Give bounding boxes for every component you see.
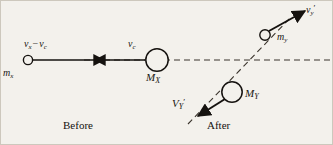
label-outgoing-large-mass: MY xyxy=(245,88,259,101)
label-outgoing-large-mass-sub: Y xyxy=(254,92,258,101)
label-incoming-mass: mx xyxy=(3,68,13,80)
body-circle-my xyxy=(260,30,270,40)
figure-border xyxy=(1,1,333,145)
label-center-velocity: vc xyxy=(128,39,136,51)
label-outgoing-small-velocity: vy′ xyxy=(306,4,316,17)
label-outgoing-large-velocity: VY′ xyxy=(172,98,185,111)
figure-vector-layer xyxy=(0,0,333,145)
label-center-velocity-sub: c xyxy=(132,43,135,51)
label-outgoing-large-velocity-prime: ′ xyxy=(183,97,185,107)
velocity-arrow-MY-downleft xyxy=(198,99,225,116)
label-center-mass-base: M xyxy=(146,71,155,83)
label-center-mass: MX xyxy=(146,72,160,85)
label-outgoing-small-velocity-prime: ′ xyxy=(314,3,316,13)
body-circle-MX xyxy=(146,49,168,71)
caption-before: Before xyxy=(63,120,93,131)
label-outgoing-large-velocity-base: V xyxy=(172,97,179,109)
physics-collision-figure: vx−vc mx vc MX vy′ my MY VY′ Before Afte… xyxy=(0,0,333,145)
label-incoming-velocity: vx−vc xyxy=(24,39,47,51)
label-incoming-velocity-sub2: c xyxy=(44,43,47,51)
label-incoming-mass-sub: x xyxy=(10,72,13,80)
label-outgoing-small-mass: my xyxy=(277,32,287,44)
label-outgoing-large-mass-base: M xyxy=(245,87,254,99)
caption-after: After xyxy=(207,120,230,131)
velocity-arrow-my-upright xyxy=(269,11,305,31)
body-circle-mx xyxy=(23,55,32,64)
label-center-mass-sub: X xyxy=(155,76,160,85)
label-outgoing-small-mass-sub: y xyxy=(284,36,287,44)
